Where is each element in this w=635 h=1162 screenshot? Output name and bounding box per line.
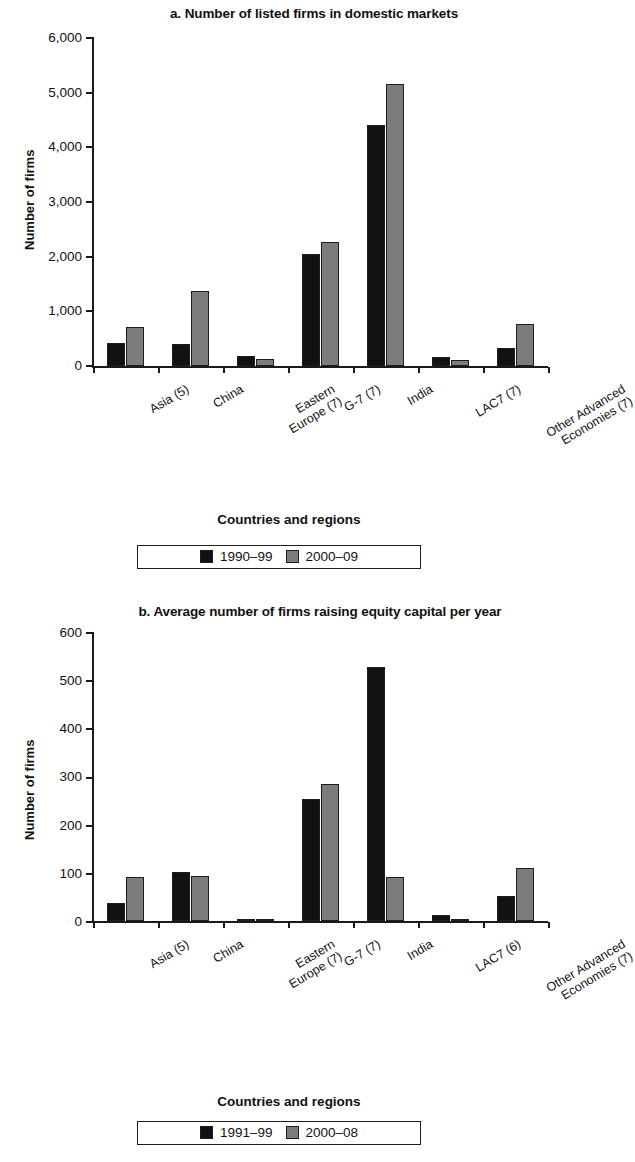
chart-a-y-tick: 2,000 <box>48 250 82 264</box>
chart-b-x-axis-title: Countries and regions <box>0 1094 560 1109</box>
bar-b-2-1 <box>256 919 275 921</box>
chart-b-legend-label: 1991–99 <box>220 1125 273 1140</box>
x-tickmark <box>483 922 485 928</box>
bar-a-0-0 <box>107 343 126 366</box>
x-tickmark <box>158 367 160 373</box>
chart-b-x-labels: Asia (5)ChinaEasternEurope (7)G-7 (7)Ind… <box>93 933 548 1043</box>
bar-a-1-1 <box>191 291 210 366</box>
chart-b-y-tickmark <box>86 825 92 827</box>
bar-b-1-0 <box>172 872 191 921</box>
chart-a-y-tickmark <box>86 365 92 367</box>
bar-a-1-0 <box>172 344 191 366</box>
legend-swatch-icon <box>200 1126 213 1139</box>
chart-a-plot: Number of firms 6,000 5,000 4,000 3,000 … <box>0 0 560 380</box>
chart-a-y-ticks: 6,000 5,000 4,000 3,000 2,000 1,000 0 <box>24 0 82 380</box>
x-tickmark <box>548 922 550 928</box>
x-tickmark <box>288 922 290 928</box>
chart-a-y-tick: 4,000 <box>48 140 82 154</box>
chart-b-y-tick: 0 <box>74 915 82 929</box>
x-tickmark <box>418 367 420 373</box>
chart-b-y-tickmark <box>86 873 92 875</box>
x-tickmark <box>93 922 95 928</box>
chart-b-x-tickmarks <box>93 922 548 930</box>
x-axis-category-label: Asia (5) <box>147 937 191 971</box>
x-tickmark <box>223 922 225 928</box>
x-axis-category-label: China <box>211 937 246 966</box>
legend-swatch-icon <box>286 550 299 563</box>
chart-a-y-tick: 3,000 <box>48 195 82 209</box>
x-axis-category-label: LAC7 (7) <box>473 382 523 420</box>
chart-panel-a: a. Number of listed firms in domestic ma… <box>0 0 560 600</box>
chart-b-y-tick: 100 <box>59 867 82 881</box>
chart-a-y-tickmark <box>86 256 92 258</box>
bar-a-5-0 <box>432 357 451 366</box>
chart-a-legend-entry: 1990–99 <box>200 549 273 564</box>
chart-a-y-tickmark <box>86 146 92 148</box>
x-axis-category-label: G-7 (7) <box>342 382 383 414</box>
chart-b-bars <box>93 632 548 921</box>
chart-b-y-tickmark <box>86 728 92 730</box>
chart-b-y-tick: 400 <box>59 722 82 736</box>
bar-a-6-1 <box>516 324 535 366</box>
x-axis-category-label: LAC7 (6) <box>473 937 523 975</box>
chart-b-y-tick: 200 <box>59 819 82 833</box>
bar-b-6-0 <box>497 896 516 921</box>
x-tickmark <box>158 922 160 928</box>
bar-a-4-0 <box>367 125 386 366</box>
bar-b-4-1 <box>386 877 405 921</box>
chart-b-y-tick: 500 <box>59 674 82 688</box>
x-tickmark <box>353 367 355 373</box>
chart-a-y-tickmark <box>86 37 92 39</box>
x-axis-category-label: EasternEurope (7) <box>280 382 345 436</box>
chart-panel-b: b. Average number of firms raising equit… <box>0 600 560 1162</box>
x-axis-category-label: Other AdvancedEconomies (7) <box>544 937 635 1007</box>
chart-b-plot: Number of firms 600 500 400 300 200 100 … <box>0 600 560 940</box>
bar-b-6-1 <box>516 868 535 921</box>
bar-a-2-1 <box>256 359 275 366</box>
x-axis-category-label: Other AdvancedEconomies (7) <box>544 382 635 452</box>
chart-a-legend-label: 2000–09 <box>306 549 359 564</box>
chart-a-x-axis-title: Countries and regions <box>0 512 560 527</box>
chart-a-y-tick: 1,000 <box>48 304 82 318</box>
bar-b-3-1 <box>321 784 340 921</box>
chart-a-y-tick: 5,000 <box>48 86 82 100</box>
legend-swatch-icon <box>286 1126 299 1139</box>
bar-a-6-0 <box>497 348 516 366</box>
x-axis-category-label: India <box>405 937 435 963</box>
x-axis-category-label: India <box>405 382 435 408</box>
chart-b-y-tick: 300 <box>59 770 82 784</box>
chart-a-legend-entry: 2000–09 <box>286 549 359 564</box>
chart-b-legend-entry: 1991–99 <box>200 1125 273 1140</box>
chart-a-x-tickmarks <box>93 367 548 375</box>
chart-a-x-labels: Asia (5)ChinaEasternEurope (7)G-7 (7)Ind… <box>93 378 548 488</box>
bar-b-2-0 <box>237 919 256 921</box>
x-tickmark <box>483 367 485 373</box>
bar-b-0-0 <box>107 903 126 921</box>
x-tickmark <box>288 367 290 373</box>
chart-a-y-tickmark <box>86 201 92 203</box>
x-axis-category-label: China <box>211 382 246 411</box>
chart-a-y-tickmark <box>86 92 92 94</box>
x-axis-category-label: G-7 (7) <box>342 937 383 969</box>
chart-a-y-tickmark <box>86 310 92 312</box>
bar-b-3-0 <box>302 799 321 921</box>
chart-b-legend-label: 2000–08 <box>306 1125 359 1140</box>
chart-a-legend-label: 1990–99 <box>220 549 273 564</box>
chart-b-y-tick: 600 <box>59 626 82 640</box>
bar-b-5-1 <box>451 919 470 921</box>
chart-b-y-tickmark <box>86 777 92 779</box>
chart-a-y-tick: 6,000 <box>48 31 82 45</box>
chart-b-y-tickmark <box>86 632 92 634</box>
chart-a-legend: 1990–99 2000–09 <box>137 545 421 569</box>
x-tickmark <box>93 367 95 373</box>
bar-b-5-0 <box>432 915 451 921</box>
bar-a-3-1 <box>321 242 340 366</box>
bar-b-0-1 <box>126 877 145 921</box>
bar-a-2-0 <box>237 356 256 366</box>
chart-a-y-tick: 0 <box>74 359 82 373</box>
bar-b-4-0 <box>367 667 386 921</box>
bar-a-5-1 <box>451 360 470 366</box>
chart-b-y-ticks: 600 500 400 300 200 100 0 <box>24 600 82 940</box>
x-tickmark <box>223 367 225 373</box>
bar-a-4-1 <box>386 84 405 366</box>
